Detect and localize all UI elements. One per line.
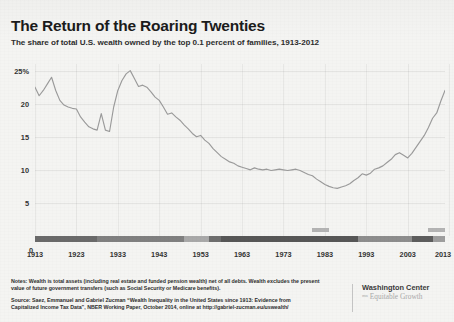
axis-bar-segment-2	[184, 236, 209, 242]
axis-bar-segment-4	[221, 236, 358, 242]
axis-bar-segment-0	[35, 236, 97, 242]
recession-mark-1	[428, 228, 445, 232]
y-tick-label-20: 20	[21, 99, 29, 108]
x-tick-label-1983: 1983	[317, 250, 333, 259]
x-tick-label-1953: 1953	[193, 250, 209, 259]
x-tick-label-1993: 1993	[358, 250, 374, 259]
series-line	[35, 64, 445, 236]
x-tick-label-1923: 1923	[68, 250, 84, 259]
x-tick-label-1933: 1933	[110, 250, 126, 259]
notes-block: Notes: Wealth is total assets (including…	[11, 278, 341, 292]
chart-footnotes: Notes: Wealth is total assets (including…	[11, 278, 341, 316]
notes-line-2: value of future government transfers (su…	[11, 285, 341, 292]
source-block: Source: Saez, Emmanuel and Gabriel Zucma…	[11, 297, 341, 311]
chart-subtitle: The share of total U.S. wealth owned by …	[11, 38, 444, 47]
axis-bar-segment-6	[412, 236, 433, 242]
x-tick-label-1963: 1963	[234, 250, 250, 259]
axis-bar-segment-1	[97, 236, 184, 242]
chart-figure: The Return of the Roaring Twenties The s…	[0, 0, 454, 322]
y-tick-label-10: 10	[21, 165, 29, 174]
source-line-2: Capitalized Income Tax Data”, NBER Worki…	[11, 304, 341, 311]
chart-header: The Return of the Roaring Twenties The s…	[11, 18, 444, 47]
source-line-1: Source: Saez, Emmanuel and Gabriel Zucma…	[11, 297, 341, 304]
x-axis-labels: 1913192319331943195319631973198319932003…	[35, 250, 445, 264]
x-tick-label-1913: 1913	[27, 250, 43, 259]
page-title: The Return of the Roaring Twenties	[11, 18, 444, 34]
x-tick-label-1973: 1973	[275, 250, 291, 259]
axis-bar-segment-5	[358, 236, 412, 242]
organization-logo: Washington Center ᵐⁿ Equitable Growth	[352, 284, 450, 312]
series-path-top-share	[35, 71, 445, 189]
x-axis-bar	[35, 236, 445, 242]
y-tick-label-5: 5	[25, 198, 29, 207]
x-tick-label-2013: 2013	[435, 250, 451, 259]
plot-area: 25%2015105	[35, 64, 445, 236]
x-tick-label-1943: 1943	[151, 250, 167, 259]
y-tick-label-15: 15	[21, 132, 29, 141]
recession-mark-0	[312, 228, 329, 232]
axis-bar-segment-7	[433, 236, 445, 242]
logo-line-2: ᵐⁿ Equitable Growth	[362, 293, 450, 302]
y-tick-label-25: 25%	[14, 66, 29, 75]
axis-bar-segment-3	[209, 236, 221, 242]
notes-line-1: Notes: Wealth is total assets (including…	[11, 278, 341, 285]
x-tick-label-2003: 2003	[400, 250, 416, 259]
gridline-x-2013	[449, 64, 450, 236]
